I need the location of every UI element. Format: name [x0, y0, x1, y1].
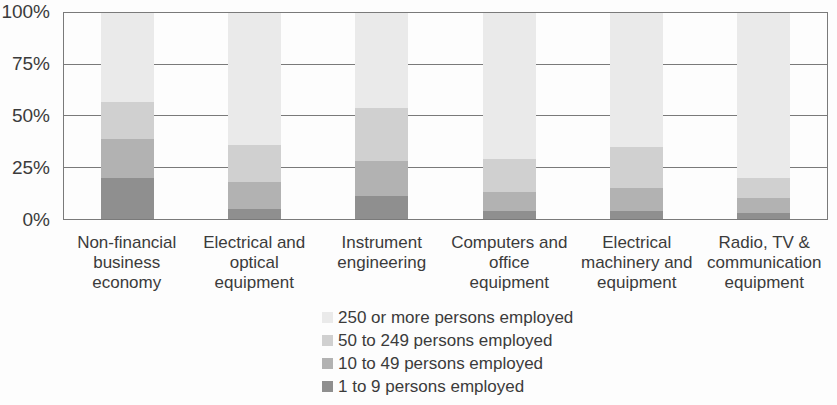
bar-segment [355, 13, 408, 108]
bar-segment [610, 13, 663, 147]
bar-4 [483, 13, 536, 219]
bar-segment [610, 147, 663, 188]
bars-row [64, 13, 827, 219]
plot-area [63, 12, 828, 220]
bar-segment [737, 178, 790, 199]
x-axis-label-line: economy [67, 273, 187, 293]
x-axis-label-line: equipment [577, 273, 697, 293]
bar-slot [700, 13, 827, 219]
bar-segment [228, 209, 281, 219]
bar-segment [228, 145, 281, 182]
x-axis-label: Instrumentengineering [318, 233, 446, 273]
bar-segment [737, 13, 790, 178]
bar-segment [228, 182, 281, 209]
bar-segment [101, 139, 154, 178]
x-axis-label-line: equipment [705, 273, 825, 293]
x-axis-label-line: business [67, 253, 187, 273]
bar-segment [737, 198, 790, 212]
x-axis-label-line: Non-financial [67, 233, 187, 253]
legend-label: 250 or more persons employed [338, 308, 573, 328]
x-axis-label-line: communication [705, 253, 825, 273]
legend-label: 50 to 249 persons employed [338, 331, 553, 351]
bar-segment [483, 211, 536, 219]
bar-5 [610, 13, 663, 219]
x-axis-labels: Non-financialbusinesseconomyElectrical a… [63, 233, 828, 293]
bar-segment [101, 178, 154, 219]
bar-slot [573, 13, 700, 219]
y-tick-label: 0% [0, 210, 50, 230]
bar-6 [737, 13, 790, 219]
x-axis-label-line: Electrical [577, 233, 697, 253]
legend-swatch [322, 381, 333, 392]
bar-slot [318, 13, 445, 219]
legend-label: 1 to 9 persons employed [338, 377, 524, 397]
y-tick-label: 100% [0, 2, 50, 22]
bar-segment [228, 13, 281, 145]
legend-swatch [322, 335, 333, 346]
legend-row: 1 to 9 persons employed [322, 375, 573, 398]
legend-swatch [322, 312, 333, 323]
x-axis-label: Radio, TV &communicationequipment [701, 233, 829, 293]
legend-row: 10 to 49 persons employed [322, 352, 573, 375]
x-axis-label: Electrical andopticalequipment [191, 233, 319, 293]
y-tick-label: 75% [0, 54, 50, 74]
legend-swatch [322, 358, 333, 369]
x-axis-label-line: Radio, TV & [705, 233, 825, 253]
y-tick-label: 25% [0, 158, 50, 178]
x-axis-label-line: engineering [322, 253, 442, 273]
x-axis-label: Non-financialbusinesseconomy [63, 233, 191, 293]
bar-segment [610, 188, 663, 211]
bar-segment [355, 161, 408, 196]
bar-segment [483, 159, 536, 192]
bar-2 [228, 13, 281, 219]
x-axis-label: Computers andoffice equipment [446, 233, 574, 293]
bar-3 [355, 13, 408, 219]
x-axis-label-line: equipment [195, 273, 315, 293]
bar-segment [101, 13, 154, 102]
x-axis-label-line: machinery and [577, 253, 697, 273]
legend: 250 or more persons employed50 to 249 pe… [322, 306, 573, 398]
bar-segment [610, 211, 663, 219]
bar-segment [355, 108, 408, 162]
x-axis-label: Electricalmachinery andequipment [573, 233, 701, 293]
y-tick-label: 50% [0, 106, 50, 126]
x-axis-label-line: office equipment [450, 253, 570, 293]
bar-segment [483, 192, 536, 211]
legend-row: 250 or more persons employed [322, 306, 573, 329]
bar-segment [483, 13, 536, 159]
bar-segment [737, 213, 790, 219]
x-axis-label-line: Computers and [450, 233, 570, 253]
x-axis-label-line: Electrical and [195, 233, 315, 253]
x-axis-label-line: optical [195, 253, 315, 273]
bar-slot [446, 13, 573, 219]
bar-1 [101, 13, 154, 219]
stacked-bar-chart-figure: 100%75%50%25%0% Non-financialbusinesseco… [0, 0, 837, 405]
bar-segment [355, 196, 408, 219]
legend-row: 50 to 249 persons employed [322, 329, 573, 352]
x-axis-label-line: Instrument [322, 233, 442, 253]
legend-label: 10 to 49 persons employed [338, 354, 543, 374]
bar-slot [191, 13, 318, 219]
bar-segment [101, 102, 154, 139]
bar-slot [64, 13, 191, 219]
